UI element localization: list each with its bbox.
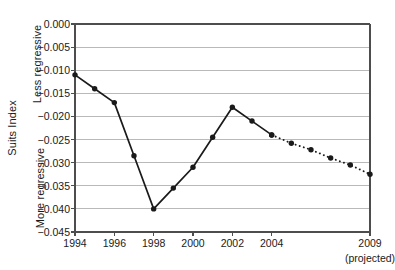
x-axis-tick-label: 1996 [103, 238, 126, 249]
x-axis-projected-note: (projected) [345, 252, 395, 264]
x-axis-tick-label: 2000 [181, 238, 204, 249]
x-axis-tick-label: 2002 [221, 238, 244, 249]
x-axis-tick-label: 1998 [142, 238, 165, 249]
x-axis-tick-label: 2004 [260, 238, 283, 249]
x-axis-tick-label: 1994 [63, 238, 86, 249]
x-axis-tick-label: 2009 [358, 238, 381, 249]
